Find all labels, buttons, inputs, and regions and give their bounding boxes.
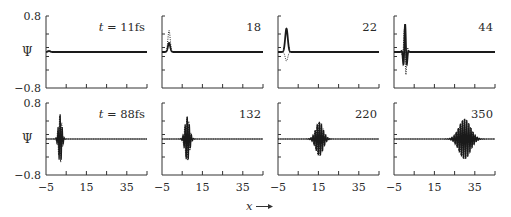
panel-22fs: 22 <box>278 16 379 88</box>
panel-grid: t = 11fs0.8−0.8182244t = 88fs0.8−0.8−515… <box>14 10 495 194</box>
panel-time-label: 44 <box>478 20 493 34</box>
real-part-curve <box>394 119 495 159</box>
x-axis-label: x <box>246 199 273 213</box>
x-tick-label: 15 <box>311 181 325 194</box>
y-axis-label-bottom: Ψ <box>22 132 33 146</box>
panel-time-label: t = 88fs <box>99 107 145 121</box>
x-tick-label: −5 <box>386 181 402 194</box>
real-part-curve <box>46 114 147 159</box>
panel-time-label: 22 <box>362 20 377 34</box>
panel-11fs: t = 11fs0.8−0.8 <box>14 10 147 95</box>
wavepacket-figure: t = 11fs0.8−0.8182244t = 88fs0.8−0.8−515… <box>0 0 511 217</box>
y-axis-label-top: Ψ <box>22 45 33 59</box>
y-tick-label-min: −0.8 <box>14 82 41 95</box>
panel-18fs: 18 <box>162 16 263 88</box>
panel-88fs: t = 88fs0.8−0.8−51535 <box>14 97 147 194</box>
real-part-curve <box>46 51 147 52</box>
x-tick-label: −5 <box>154 181 170 194</box>
panel-132fs: 132−51535 <box>154 103 263 194</box>
panel-time-label: 220 <box>355 107 377 121</box>
x-tick-label: −5 <box>38 181 54 194</box>
panel-350fs: 350−51535 <box>386 103 495 194</box>
x-tick-label: 35 <box>352 181 366 194</box>
panel-time-label: 18 <box>246 20 261 34</box>
panel-220fs: 220−51535 <box>270 103 379 194</box>
y-tick-label-max: 0.8 <box>24 10 42 23</box>
x-tick-label: 15 <box>195 181 209 194</box>
x-tick-label: 35 <box>120 181 134 194</box>
real-part-curve <box>278 122 379 155</box>
x-tick-label: 15 <box>79 181 93 194</box>
real-part-curve <box>162 43 263 52</box>
x-tick-label: 15 <box>427 181 441 194</box>
x-axis-label-text: x <box>246 199 253 213</box>
x-tick-label: 35 <box>236 181 250 194</box>
x-tick-label: −5 <box>270 181 286 194</box>
panel-44fs: 44 <box>394 16 495 88</box>
y-tick-label-max: 0.8 <box>24 97 42 110</box>
arrow-right-icon <box>256 204 273 209</box>
imaginary-part-curve <box>278 52 379 61</box>
x-tick-label: 35 <box>468 181 482 194</box>
panel-time-label: 350 <box>471 107 493 121</box>
real-part-curve <box>162 117 263 160</box>
panel-time-label: 132 <box>239 107 261 121</box>
panel-time-label: t = 11fs <box>99 20 145 34</box>
